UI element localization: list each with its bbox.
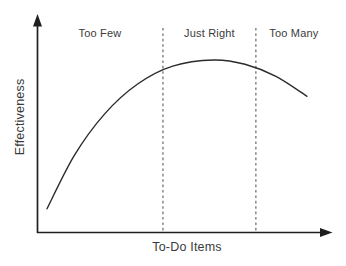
x-axis-arrow-icon bbox=[320, 228, 333, 237]
zone-label-too-few: Too Few bbox=[79, 27, 122, 39]
zone-label-too-many: Too Many bbox=[269, 27, 318, 39]
chart-canvas bbox=[0, 0, 346, 266]
x-axis-title: To-Do Items bbox=[152, 240, 222, 254]
effectiveness-chart: Too Few Just Right Too Many Effectivenes… bbox=[0, 0, 346, 266]
effectiveness-curve bbox=[47, 60, 307, 209]
zone-label-just-right: Just Right bbox=[184, 27, 235, 39]
y-axis-arrow-icon bbox=[33, 14, 42, 27]
y-axis-title: Effectiveness bbox=[13, 79, 27, 156]
